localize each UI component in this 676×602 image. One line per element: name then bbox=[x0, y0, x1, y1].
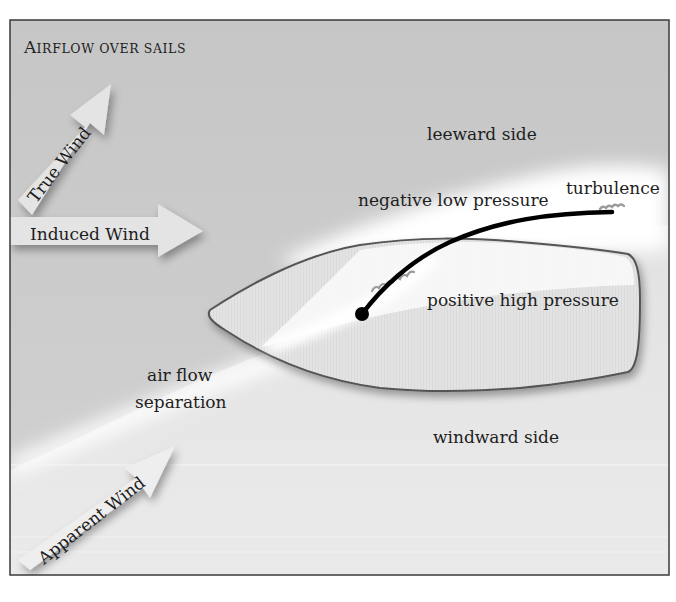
induced-wind-label: Induced Wind bbox=[30, 224, 150, 244]
flow-origin-dot bbox=[355, 307, 369, 321]
leeward-side-label: leeward side bbox=[427, 124, 537, 144]
air-flow-separation-label-line1: air flow bbox=[147, 365, 213, 385]
positive-high-pressure-label: positive high pressure bbox=[427, 290, 619, 310]
turbulence-label: turbulence bbox=[566, 178, 660, 198]
negative-low-pressure-label: negative low pressure bbox=[358, 190, 549, 210]
airflow-diagram: AIRFLOW OVER SAILS True Wind Induced Win… bbox=[0, 0, 676, 602]
air-flow-separation-label-line2: separation bbox=[135, 392, 227, 412]
windward-side-label: windward side bbox=[433, 427, 559, 447]
